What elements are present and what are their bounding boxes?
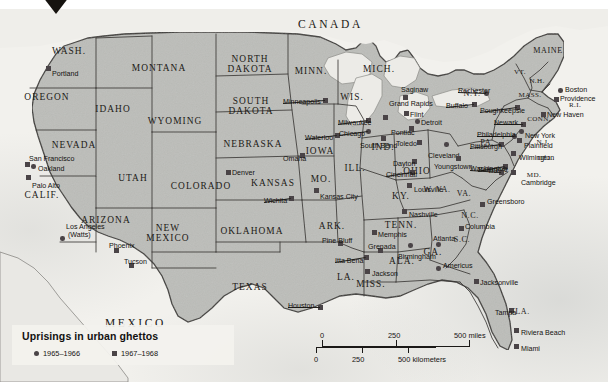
city-marker-denver[interactable] [226, 170, 231, 175]
city-marker-miami[interactable] [514, 344, 519, 349]
city-marker-losangeles[interactable] [60, 236, 65, 241]
scale-tick-miles-500 [469, 340, 470, 347]
city-marker-flint[interactable] [404, 111, 409, 116]
city-marker-youngstown[interactable] [456, 156, 461, 161]
legend: Uprisings in urban ghettos 1965–1966 196… [12, 325, 234, 365]
city-marker-memphis[interactable] [372, 230, 377, 235]
city-marker-tucson[interactable] [129, 263, 134, 268]
city-marker-americus[interactable] [436, 266, 441, 271]
city-leader-houston [288, 307, 320, 308]
city-marker-grenada[interactable] [378, 248, 383, 253]
city-marker-columbia[interactable] [459, 226, 464, 231]
city-marker-paloalto[interactable] [26, 175, 31, 180]
city-marker-portland[interactable] [46, 66, 51, 71]
scale-label-km-500: 500 kilometers [398, 355, 446, 364]
city-marker-jacksonville[interactable] [474, 279, 479, 284]
scale-label-miles-250: 250 [388, 331, 400, 340]
city-marker-toledo[interactable] [417, 140, 422, 145]
city-marker-rivierabeach[interactable] [514, 328, 519, 333]
city-marker-tampa[interactable] [509, 308, 514, 313]
scale-tick-km-250 [362, 347, 363, 353]
us-landmass [32, 32, 564, 350]
city-marker-cambridge[interactable] [511, 170, 516, 175]
city-marker-grandrapids[interactable] [383, 115, 388, 120]
city-marker-louisville[interactable] [407, 183, 412, 188]
scale-line-kilometers [316, 347, 436, 348]
legend-label-1967-1968: 1967–1968 [121, 349, 158, 358]
scale-label-miles-0: 0 [320, 331, 324, 340]
city-marker-saginaw[interactable] [403, 95, 408, 100]
city-marker-boston[interactable] [558, 88, 563, 93]
city-marker-kansascity[interactable] [314, 188, 319, 193]
city-marker-phoenix[interactable] [114, 248, 119, 253]
city-marker-plainfield[interactable] [517, 138, 522, 143]
city-leader-philadelphia [477, 136, 514, 137]
city-marker-omaha[interactable] [300, 153, 305, 158]
city-marker-birmingham[interactable] [408, 243, 413, 248]
city-marker-cleveland[interactable] [444, 142, 449, 147]
city-leader-newark [494, 124, 523, 125]
legend-label-1965-1966: 1965–1966 [43, 349, 80, 358]
city-marker-providence[interactable] [554, 97, 559, 102]
city-marker-nashville[interactable] [402, 209, 407, 214]
city-marker-pinebluff[interactable] [338, 241, 343, 246]
city-marker-atlanta[interactable] [436, 242, 441, 247]
top-white-bar [0, 0, 608, 9]
legend-title: Uprisings in urban ghettos [22, 330, 158, 342]
city-marker-dayton[interactable] [412, 159, 417, 164]
city-marker-sanfrancisco[interactable] [25, 162, 30, 167]
scale-tick-km-500 [408, 347, 409, 353]
scale-label-miles-500: 500 miles [454, 331, 486, 340]
scale-label-km-250: 250 [352, 355, 364, 364]
city-marker-jackson[interactable] [365, 269, 370, 274]
city-marker-oakland[interactable] [31, 164, 36, 169]
city-marker-newyork[interactable] [519, 129, 524, 134]
city-marker-newhaven[interactable] [541, 112, 546, 117]
legend-swatch-circle [34, 351, 39, 356]
city-marker-pontiac[interactable] [409, 126, 414, 131]
scale-tick-miles-250 [396, 340, 397, 347]
scale-tick-miles-0 [322, 340, 323, 347]
city-marker-southbend[interactable] [381, 136, 386, 141]
scale-tick-km-0 [316, 347, 317, 353]
map-container: CANADAMEXICOWASH.OREGONIDAHOMONTANAWYOMI… [0, 0, 608, 382]
scale-bar: 0 250 500 miles 0 250 500 kilometers [322, 330, 502, 370]
city-marker-detroit[interactable] [415, 119, 420, 124]
city-marker-wilmington[interactable] [511, 151, 516, 156]
legend-swatch-square [112, 351, 117, 356]
city-marker-greensboro[interactable] [480, 202, 485, 207]
scale-label-km-0: 0 [314, 355, 318, 364]
